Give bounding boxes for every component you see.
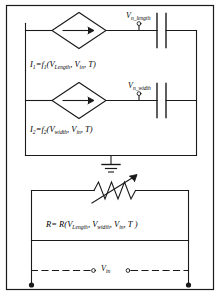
vin-left-terminal-dot (29, 282, 34, 287)
equation-i2-v2-sub: in (77, 129, 81, 135)
node-terminal-length (137, 22, 141, 26)
equation-r-comma2: , (110, 219, 112, 229)
equation-r-v3-sub: in (119, 224, 123, 230)
equation-i1-close: ) (93, 59, 96, 69)
equation-r-t: T (128, 219, 133, 229)
vin-port-right-circle (126, 269, 130, 273)
equation-i2-lhs-sub: 2 (33, 129, 36, 135)
equation-i1-v1-sub: Length (55, 64, 71, 70)
label-vin: Vin (101, 264, 110, 273)
equation-r-v1-sub: Length (72, 224, 88, 230)
equation-i2-v2: V (71, 124, 76, 134)
equation-r-eq: = (51, 219, 57, 229)
equation-i1-v2-sub: in (80, 64, 84, 70)
equation-i2-comma1: , (67, 124, 69, 134)
equation-i2-fn-sub: 2 (44, 129, 47, 135)
variable-resistor-zigzag (94, 182, 136, 199)
label-vin-sub: in (106, 268, 110, 274)
current-arrow-head-width (88, 97, 94, 104)
equation-i2-close: ) (90, 124, 93, 134)
equation-r-comma1: , (88, 219, 90, 229)
equation-r-close: ) (135, 219, 138, 229)
node-label-v-n-width: Vn_width (128, 81, 151, 90)
current-arrow-head-length (88, 27, 94, 34)
equation-i2-v1: V (49, 124, 54, 134)
equation-i1: I1=f1(VLength, Vin, T) (30, 59, 96, 69)
equation-i1-v2: V (74, 59, 79, 69)
node-label-v-n-length-sub: n_length (131, 15, 151, 21)
node-label-v-n-width-sub: n_width (133, 85, 151, 91)
equation-i1-lhs-sub: 1 (33, 64, 36, 70)
equation-i2-v1-sub: width (55, 129, 67, 135)
equation-resistance: R= R(VLength, Vwidth, Vin, T ) (46, 219, 138, 229)
circuit-diagram: Vn_length I1=f1(VLength, Vin, T) Vn_widt… (0, 0, 220, 295)
circuit-schematic-canvas (0, 0, 220, 295)
equation-i2-comma2: , (81, 124, 83, 134)
equation-i1-v1: V (49, 59, 54, 69)
equation-i1-comma1: , (70, 59, 72, 69)
equation-r-v2-sub: width (97, 224, 109, 230)
equation-i2: I2=f2(Vwidth, Vin, T) (30, 124, 93, 134)
equation-i1-fn-sub: 1 (44, 64, 47, 70)
variable-resistor-arrow-head (130, 175, 138, 182)
node-label-v-n-length: Vn_length (126, 11, 150, 20)
outer-frame (7, 6, 214, 290)
node-terminal-width (137, 92, 141, 96)
equation-i1-comma2: , (84, 59, 86, 69)
vin-right-terminal-dot (186, 282, 191, 287)
variable-resistor-arrow (92, 176, 136, 204)
vin-port-left-circle (92, 269, 96, 273)
